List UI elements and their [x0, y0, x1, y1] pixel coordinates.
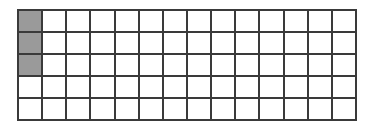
grid-cell[interactable] — [67, 55, 89, 75]
grid-cell[interactable] — [116, 33, 138, 53]
grid-cell[interactable] — [91, 33, 113, 53]
grid-cell[interactable] — [285, 11, 307, 31]
grid-cell[interactable] — [309, 77, 331, 97]
grid-cell[interactable] — [140, 11, 162, 31]
grid-cell[interactable] — [140, 33, 162, 53]
grid-cell[interactable] — [164, 33, 186, 53]
grid-cell[interactable] — [43, 11, 65, 31]
grid-cell[interactable] — [140, 55, 162, 75]
grid-cell[interactable] — [285, 99, 307, 119]
grid-cell[interactable] — [285, 55, 307, 75]
grid-cell[interactable] — [309, 99, 331, 119]
grid-cell[interactable] — [309, 11, 331, 31]
grid-cell[interactable] — [188, 11, 210, 31]
grid-cell[interactable] — [140, 99, 162, 119]
grid-cell[interactable] — [212, 99, 234, 119]
grid-cell[interactable] — [19, 77, 41, 97]
grid-cell[interactable] — [91, 77, 113, 97]
grid-cell[interactable] — [164, 99, 186, 119]
grid-cell[interactable] — [333, 33, 355, 53]
grid-cell[interactable] — [236, 11, 258, 31]
grid-cell[interactable] — [67, 99, 89, 119]
grid-cell[interactable] — [260, 33, 282, 53]
grid-cell[interactable] — [164, 77, 186, 97]
grid-cell-shaded[interactable] — [19, 11, 41, 31]
grid-cell[interactable] — [91, 99, 113, 119]
grid-cell[interactable] — [116, 99, 138, 119]
grid-cell[interactable] — [333, 11, 355, 31]
grid-figure — [0, 0, 373, 127]
grid-cell[interactable] — [236, 99, 258, 119]
grid-cell-shaded[interactable] — [19, 55, 41, 75]
grid-cell[interactable] — [236, 77, 258, 97]
grid-cell[interactable] — [236, 33, 258, 53]
grid-cell[interactable] — [309, 55, 331, 75]
grid-cell[interactable] — [19, 99, 41, 119]
grid-cell[interactable] — [116, 55, 138, 75]
grid-cell[interactable] — [43, 55, 65, 75]
grid-cell[interactable] — [333, 55, 355, 75]
cell-grid — [17, 9, 357, 121]
grid-cell[interactable] — [333, 77, 355, 97]
grid-cell[interactable] — [260, 77, 282, 97]
grid-cell[interactable] — [43, 77, 65, 97]
grid-cell[interactable] — [212, 11, 234, 31]
grid-cell[interactable] — [212, 55, 234, 75]
grid-cell[interactable] — [188, 77, 210, 97]
grid-cell[interactable] — [43, 33, 65, 53]
grid-cell[interactable] — [212, 77, 234, 97]
grid-cell[interactable] — [140, 77, 162, 97]
grid-cell[interactable] — [309, 33, 331, 53]
grid-cell[interactable] — [116, 77, 138, 97]
grid-cell[interactable] — [91, 11, 113, 31]
grid-cell[interactable] — [116, 11, 138, 31]
grid-cell[interactable] — [188, 33, 210, 53]
grid-cell[interactable] — [188, 55, 210, 75]
grid-cell[interactable] — [188, 99, 210, 119]
grid-cell[interactable] — [285, 33, 307, 53]
grid-cell[interactable] — [260, 11, 282, 31]
grid-cell[interactable] — [285, 77, 307, 97]
grid-cell[interactable] — [91, 55, 113, 75]
grid-cell[interactable] — [67, 33, 89, 53]
grid-cell[interactable] — [67, 77, 89, 97]
grid-cell[interactable] — [67, 11, 89, 31]
grid-cell[interactable] — [260, 99, 282, 119]
grid-cell[interactable] — [164, 55, 186, 75]
grid-cell[interactable] — [260, 55, 282, 75]
grid-cell[interactable] — [212, 33, 234, 53]
grid-cell[interactable] — [333, 99, 355, 119]
grid-cell[interactable] — [164, 11, 186, 31]
grid-cell[interactable] — [236, 55, 258, 75]
grid-cell-shaded[interactable] — [19, 33, 41, 53]
grid-cell[interactable] — [43, 99, 65, 119]
